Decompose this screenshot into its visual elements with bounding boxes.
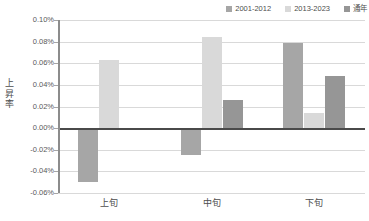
- y-axis-title-char: 率: [4, 99, 15, 110]
- y-axis-title-char: 昇: [4, 89, 15, 100]
- y-axis-tick-label: 0.04%: [16, 81, 54, 89]
- legend-label: 通年: [353, 4, 367, 13]
- y-axis-tick: [54, 85, 58, 86]
- bar[interactable]: [78, 128, 98, 182]
- y-axis-tick-label: 0.02%: [16, 103, 54, 111]
- legend-entry[interactable]: 2013-2023: [285, 4, 330, 13]
- y-axis-tick: [54, 171, 58, 172]
- plot-area: [58, 20, 365, 193]
- y-axis-tick: [54, 193, 58, 194]
- bars-layer: [58, 20, 365, 193]
- y-axis-tick-label: 0.08%: [16, 38, 54, 46]
- y-axis-tick-label: 0.00%: [16, 124, 54, 132]
- y-axis-tick: [54, 128, 58, 129]
- y-axis-tick-label: -0.06%: [16, 189, 54, 197]
- legend-swatch-icon: [226, 6, 232, 12]
- x-axis-tick-label: 上旬: [100, 198, 118, 209]
- legend-entry[interactable]: 通年: [344, 4, 367, 13]
- y-axis-title-char: 上: [4, 78, 15, 89]
- legend-label: 2001-2012: [235, 4, 271, 13]
- gridline: [58, 193, 365, 194]
- y-axis-line: [58, 20, 60, 193]
- zero-baseline: [58, 128, 365, 129]
- bar[interactable]: [223, 100, 243, 128]
- y-axis-tick-labels: 0.10%0.08%0.06%0.04%0.02%0.00%-0.02%-0.0…: [16, 0, 54, 221]
- y-axis-tick-label: 0.06%: [16, 59, 54, 67]
- bar[interactable]: [202, 37, 222, 128]
- chart-legend: 2001-20122013-2023通年: [226, 4, 367, 13]
- x-axis-tick-label: 中旬: [203, 198, 221, 209]
- y-axis-tick: [54, 63, 58, 64]
- bar-chart: 2001-20122013-2023通年 上昇率 0.10%0.08%0.06%…: [0, 0, 369, 221]
- x-axis-tick-label: 下旬: [305, 198, 323, 209]
- bar[interactable]: [325, 76, 345, 128]
- legend-swatch-icon: [344, 6, 350, 12]
- legend-entry[interactable]: 2001-2012: [226, 4, 271, 13]
- y-axis-tick-label: -0.02%: [16, 146, 54, 154]
- y-axis-tick-label: 0.10%: [16, 16, 54, 24]
- legend-swatch-icon: [285, 6, 291, 12]
- bar[interactable]: [99, 60, 119, 128]
- y-axis-title: 上昇率: [4, 78, 15, 110]
- y-axis-tick: [54, 107, 58, 108]
- bar[interactable]: [283, 43, 303, 128]
- y-axis-tick-label: -0.04%: [16, 167, 54, 175]
- legend-label: 2013-2023: [294, 4, 330, 13]
- x-axis-tick-labels: 上旬中旬下旬: [58, 196, 365, 218]
- y-axis-tick: [54, 20, 58, 21]
- bar[interactable]: [304, 113, 324, 128]
- y-axis-tick: [54, 150, 58, 151]
- y-axis-tick: [54, 42, 58, 43]
- bar[interactable]: [181, 128, 201, 155]
